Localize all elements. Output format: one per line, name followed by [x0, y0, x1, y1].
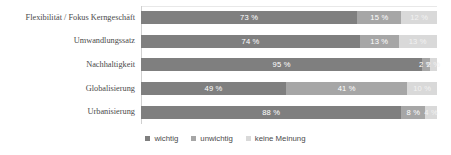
segment-value-label: 73 % — [240, 13, 258, 22]
segment-value-label: 15 % — [370, 13, 388, 22]
category-label: Urbanisierung — [0, 107, 141, 117]
stacked-bar-chart: Flexibilität / Fokus Kerngeschäft 73 % 1… — [0, 0, 451, 155]
segment-value-label: 4 % — [424, 108, 438, 117]
stacked-bar: 95 % 2 % 2 % — [141, 58, 437, 71]
bar-segment-wichtig[interactable]: 74 % — [141, 35, 360, 48]
category-label: Flexibilität / Fokus Kerngeschäft — [0, 13, 141, 23]
legend-item-unwichtig[interactable]: unwichtig — [191, 134, 233, 143]
bar-segment-wichtig[interactable]: 95 % — [141, 58, 422, 71]
stacked-bar: 88 % 8 % 4 % — [141, 106, 437, 119]
bar-segment-wichtig[interactable]: 88 % — [141, 106, 401, 119]
category-label: Umwandlungssatz — [0, 36, 141, 46]
segment-value-label: 13 % — [370, 37, 388, 46]
bar-segment-wichtig[interactable]: 73 % — [141, 11, 357, 24]
stacked-bar: 73 % 15 % 12 % — [141, 11, 437, 24]
chart-row: Nachhaltigkeit 95 % 2 % 2 % — [0, 53, 451, 77]
chart-row: Globalisierung 49 % 41 % 10 % — [0, 77, 451, 101]
segment-value-label: 41 % — [338, 84, 356, 93]
stacked-bar: 74 % 13 % 13 % — [141, 35, 437, 48]
category-label: Nachhaltigkeit — [0, 60, 141, 70]
bar-segment-keine-meinung[interactable]: 4 % — [425, 106, 437, 119]
segment-value-label: 8 % — [406, 108, 420, 117]
bar-segment-keine-meinung[interactable]: 2 % — [430, 58, 437, 71]
stacked-bar: 49 % 41 % 10 % — [141, 82, 437, 95]
segment-value-label: 2 % — [426, 60, 440, 69]
chart-row: Umwandlungssatz 74 % 13 % 13 % — [0, 30, 451, 54]
category-label: Globalisierung — [0, 84, 141, 94]
bar-segment-unwichtig[interactable]: 41 % — [286, 82, 407, 95]
bar-segment-keine-meinung[interactable]: 10 % — [407, 82, 437, 95]
chart-row: Flexibilität / Fokus Kerngeschäft 73 % 1… — [0, 6, 451, 30]
legend-label: wichtig — [154, 134, 178, 143]
legend-swatch-icon — [145, 136, 150, 141]
segment-value-label: 10 % — [413, 84, 431, 93]
chart-legend: wichtig unwichtig keine Meinung — [0, 130, 451, 146]
bar-segment-unwichtig[interactable]: 13 % — [360, 35, 398, 48]
segment-value-label: 88 % — [262, 108, 280, 117]
segment-value-label: 49 % — [204, 84, 222, 93]
legend-item-keine-meinung[interactable]: keine Meinung — [246, 134, 306, 143]
legend-item-wichtig[interactable]: wichtig — [145, 134, 178, 143]
bar-segment-keine-meinung[interactable]: 13 % — [399, 35, 437, 48]
legend-swatch-icon — [191, 136, 196, 141]
bar-segment-keine-meinung[interactable]: 12 % — [401, 11, 437, 24]
legend-swatch-icon — [246, 136, 251, 141]
segment-value-label: 95 % — [273, 60, 291, 69]
bar-segment-wichtig[interactable]: 49 % — [141, 82, 286, 95]
legend-label: keine Meinung — [255, 134, 306, 143]
segment-value-label: 12 % — [410, 13, 428, 22]
chart-row: Urbanisierung 88 % 8 % 4 % — [0, 100, 451, 124]
plot-area: Flexibilität / Fokus Kerngeschäft 73 % 1… — [0, 6, 451, 124]
segment-value-label: 13 % — [409, 37, 427, 46]
bar-segment-unwichtig[interactable]: 15 % — [357, 11, 401, 24]
legend-label: unwichtig — [200, 134, 233, 143]
bar-segment-unwichtig[interactable]: 8 % — [401, 106, 425, 119]
segment-value-label: 74 % — [241, 37, 259, 46]
